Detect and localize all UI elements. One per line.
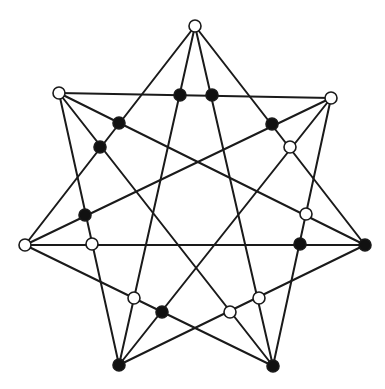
edge-group xyxy=(25,26,365,366)
inner-node-2-black xyxy=(113,117,125,129)
inner-node-7-white xyxy=(86,238,98,250)
edge-v2-v4 xyxy=(119,245,365,365)
outer-vertex-v6-white xyxy=(53,87,65,99)
outer-vertex-v5-white xyxy=(19,239,31,251)
edge-v1-v6 xyxy=(59,93,331,98)
inner-node-1-black xyxy=(206,89,218,101)
outer-vertex-v0-white xyxy=(189,20,201,32)
inner-node-8-white xyxy=(300,208,312,220)
outer-vertex-v1-white xyxy=(325,92,337,104)
inner-node-13-white xyxy=(253,292,265,304)
inner-node-12-white xyxy=(224,306,236,318)
heptagram-diagram xyxy=(0,0,385,389)
edge-v2-v6 xyxy=(59,93,365,245)
edge-v3-v5 xyxy=(25,245,273,366)
inner-node-10-white xyxy=(128,292,140,304)
outer-vertex-v2-black xyxy=(359,239,371,251)
outer-vertex-v3-black xyxy=(267,360,279,372)
node-group xyxy=(19,20,371,372)
inner-node-4-black xyxy=(266,118,278,130)
edge-v4-v6 xyxy=(59,93,119,365)
inner-node-9-black xyxy=(294,238,306,250)
edge-v1-v5 xyxy=(25,98,331,245)
inner-node-11-black xyxy=(156,306,168,318)
outer-vertex-v4-black xyxy=(113,359,125,371)
inner-node-6-black xyxy=(79,209,91,221)
inner-node-3-black xyxy=(94,141,106,153)
inner-node-0-black xyxy=(174,89,186,101)
inner-node-5-white xyxy=(284,141,296,153)
